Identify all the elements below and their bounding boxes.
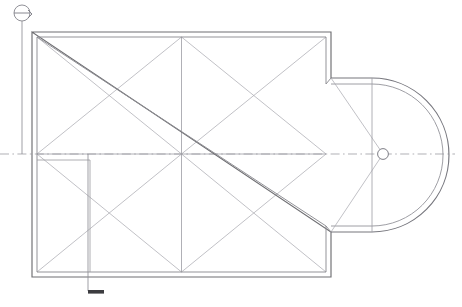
apse-outer-wall [331,78,449,232]
floor-plan-drawing [0,0,462,307]
apse-group [331,78,449,232]
apse-rib-upper [331,78,383,154]
plan-canvas [0,0,462,307]
partition-group [37,160,90,272]
apse-rib-lower [331,154,383,232]
apse-opening-jamb-top [326,78,331,84]
interior-partition-wall [37,160,90,272]
section-end-tick-icon [88,290,104,294]
apse-central-pier-icon [378,149,389,160]
section-marker-group [14,5,104,294]
